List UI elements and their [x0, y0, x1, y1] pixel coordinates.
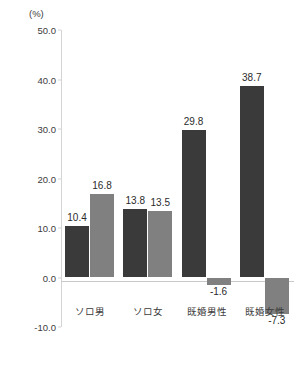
y-axis-tick-label: 40.0 [38, 74, 57, 85]
y-axis-unit-label: (%) [29, 8, 44, 19]
bar[interactable] [123, 209, 147, 277]
y-axis-tick-mark [58, 178, 61, 179]
bar-group: 13.813.5 [119, 30, 177, 327]
bar-value-label: 38.7 [229, 72, 275, 84]
bar-group: 38.7-7.3 [236, 30, 294, 327]
y-axis-tick-mark [58, 327, 61, 328]
bar[interactable] [90, 194, 114, 277]
y-axis-tick-mark [58, 277, 61, 278]
y-axis-tick-label: 0.0 [43, 272, 56, 283]
y-axis-tick-label: 50.0 [38, 25, 57, 36]
bar-value-label: 13.5 [137, 197, 183, 209]
y-axis-tick-mark [58, 228, 61, 229]
bar[interactable] [240, 86, 264, 278]
y-axis-tick-label: 20.0 [38, 173, 57, 184]
bar-value-label: 29.8 [171, 116, 217, 128]
y-axis-tick-label: 10.0 [38, 223, 57, 234]
y-axis-tick-mark [58, 79, 61, 80]
y-axis-tick-mark [58, 30, 61, 31]
bar[interactable] [148, 211, 172, 278]
bar-value-label: -1.6 [196, 286, 242, 298]
y-axis-tick-label: 30.0 [38, 124, 57, 135]
x-axis-category-label: 既婚女性 [225, 306, 302, 318]
y-axis-tick-label: -10.0 [34, 322, 56, 333]
bar[interactable] [182, 130, 206, 278]
bar[interactable] [65, 226, 89, 277]
bar-group: 29.8-1.6 [178, 30, 236, 327]
bar-value-label: 16.8 [79, 180, 125, 192]
chart-container: (%) 10.416.813.813.529.8-1.638.7-7.3 50.… [0, 0, 302, 365]
y-axis-tick-mark [58, 129, 61, 130]
bar-group: 10.416.8 [61, 30, 119, 327]
bar[interactable] [207, 278, 231, 286]
plot-area: 10.416.813.813.529.8-1.638.7-7.3 [61, 30, 294, 327]
chart-title-strip [0, 0, 302, 5]
